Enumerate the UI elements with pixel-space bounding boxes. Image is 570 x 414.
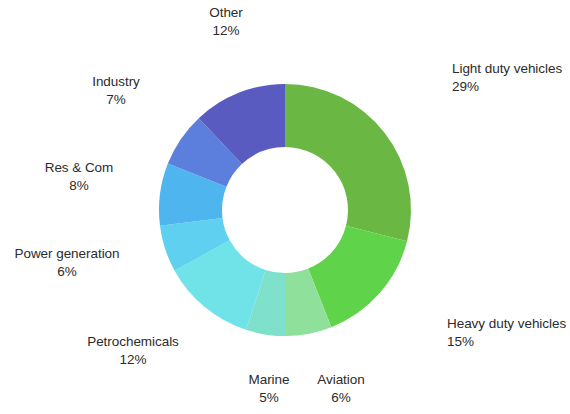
slice-label-petrochemicals: Petrochemicals 12% (70, 333, 196, 369)
donut-slice-group (159, 84, 411, 336)
slice-label-power-generation: Power generation 6% (2, 245, 132, 281)
slice-label-value: 6% (2, 263, 132, 281)
slice-label-value: 8% (26, 177, 132, 195)
slice-label-value: 12% (70, 351, 196, 369)
slice-label-value: 12% (186, 22, 266, 40)
slice-label-light-duty-vehicles: Light duty vehicles 29% (452, 60, 562, 96)
slice-label-value: 7% (69, 91, 163, 109)
slice-label-res-and-com: Res & Com 8% (26, 159, 132, 195)
slice-label-heavy-duty-vehicles: Heavy duty vehicles 15% (447, 315, 566, 351)
slice-label-value: 29% (452, 78, 562, 96)
slice-label-marine: Marine 5% (237, 371, 301, 407)
slice-label-name: Other (186, 4, 266, 22)
slice-label-other: Other 12% (186, 4, 266, 40)
slice-label-industry: Industry 7% (69, 73, 163, 109)
slice-label-aviation: Aviation 6% (305, 371, 377, 407)
slice-label-name: Aviation (305, 371, 377, 389)
slice-label-name: Marine (237, 371, 301, 389)
slice-label-name: Petrochemicals (70, 333, 196, 351)
slice-label-name: Power generation (2, 245, 132, 263)
slice-label-name: Heavy duty vehicles (447, 315, 566, 333)
donut-slice-light-duty-vehicles (285, 84, 411, 241)
donut-chart: Light duty vehicles 29% Heavy duty vehic… (0, 0, 570, 414)
slice-label-name: Industry (69, 73, 163, 91)
slice-label-name: Res & Com (26, 159, 132, 177)
slice-label-value: 6% (305, 389, 377, 407)
slice-label-value: 5% (237, 389, 301, 407)
slice-label-value: 15% (447, 333, 566, 351)
slice-label-name: Light duty vehicles (452, 60, 562, 78)
